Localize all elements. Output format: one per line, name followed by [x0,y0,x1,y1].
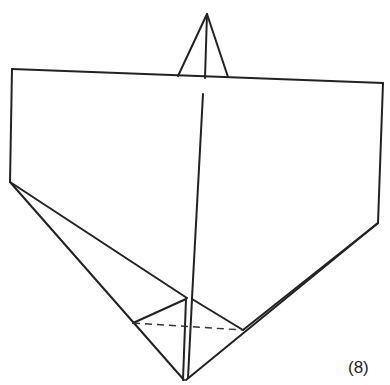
center-strip-left-line [183,299,186,380]
left-edge-line [10,69,12,182]
step-number-label: (8) [348,358,369,378]
top-edge-line [12,69,383,83]
fold-lines [10,14,383,380]
peak-right-line [207,14,228,77]
peak-left-line [178,14,207,76]
left-inner-line [10,182,187,298]
right-inner-line [243,223,378,330]
center-crease-line [192,94,203,298]
valley-fold-line [133,323,243,330]
center-strip-right-line [188,299,192,378]
inner-right-flap-line [192,299,243,330]
valley-fold-line [133,323,243,330]
left-outer-line [10,182,184,380]
inner-left-flap-line [133,299,186,323]
peak-center-line [205,14,207,78]
origami-diagram [0,0,390,385]
right-edge-line [378,83,383,223]
